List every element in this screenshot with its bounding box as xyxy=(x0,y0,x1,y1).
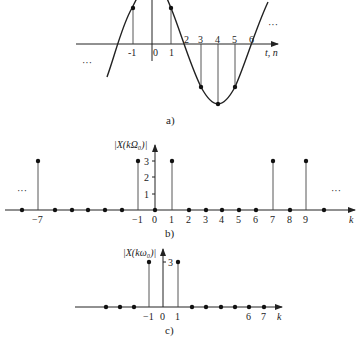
tick-label: 1 xyxy=(169,47,174,58)
tick-label: 2 xyxy=(184,34,189,45)
x-tick: −7 xyxy=(32,214,43,225)
x-tick: 1 xyxy=(175,311,180,322)
x-label: k xyxy=(277,311,282,322)
x-tick: 5 xyxy=(236,214,241,225)
x-tick: 7 xyxy=(261,311,266,322)
y-label: |X(kω₀)| xyxy=(123,247,156,259)
y-label: |X(kΩ₀)| xyxy=(114,139,147,151)
y-tick: 2 xyxy=(144,172,149,183)
caption-b: b) xyxy=(165,227,175,240)
tick-label: 6 xyxy=(249,34,254,45)
x-tick: 4 xyxy=(219,214,224,225)
ellipsis-left: ··· xyxy=(17,185,27,196)
tick-label: 0 xyxy=(153,47,158,58)
tick-label: -1 xyxy=(128,47,136,58)
ellipsis-left: ··· xyxy=(82,57,92,68)
panel-c: 3 |X(kω₀)| −1 0 1 6 7 k c) xyxy=(75,247,282,337)
axis-label: t, n xyxy=(265,47,278,58)
tick-label: 5 xyxy=(232,34,237,45)
x-tick: −1 xyxy=(132,214,143,225)
panel-a: -1 0 1 2 3 4 5 6 t, n ··· ··· a) xyxy=(76,0,278,127)
x-tick: −1 xyxy=(143,311,154,322)
caption-c: c) xyxy=(165,324,174,337)
x-tick: 6 xyxy=(253,214,258,225)
y-tick: 3 xyxy=(144,156,149,167)
x-tick: 0 xyxy=(152,214,157,225)
y-tick: 1 xyxy=(144,189,149,200)
tick-labels: -1 0 1 2 3 4 5 6 t, n xyxy=(128,34,278,58)
x-tick: 7 xyxy=(270,214,275,225)
x-tick: 3 xyxy=(203,214,208,225)
x-tick: 2 xyxy=(186,214,191,225)
panel-b: 1 2 3 |X(kΩ₀)| −7 −1 0 1 2 3 4 5 xyxy=(5,139,355,240)
tick-label: 4 xyxy=(215,34,220,45)
x-tick: 0 xyxy=(160,311,165,322)
ellipsis-right: ··· xyxy=(331,185,341,196)
x-tick: 6 xyxy=(246,311,251,322)
tick-label: 3 xyxy=(198,34,203,45)
x-tick: 1 xyxy=(169,214,174,225)
x-label: k xyxy=(349,214,354,225)
x-tick: 8 xyxy=(287,214,292,225)
ellipsis-right: ··· xyxy=(268,19,278,30)
figure: -1 0 1 2 3 4 5 6 t, n ··· ··· a) 1 2 3 |… xyxy=(0,0,359,344)
x-tick: 9 xyxy=(303,214,308,225)
caption-a: a) xyxy=(166,114,175,127)
y-tick: 3 xyxy=(168,257,173,268)
